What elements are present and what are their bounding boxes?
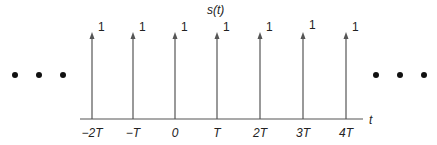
ellipsis-dot (60, 72, 66, 78)
ellipsis-dot (373, 72, 379, 78)
arrowhead-icon (90, 32, 95, 39)
tick-label: 3T (296, 126, 312, 140)
arrowhead-icon (258, 32, 263, 39)
tick-label: 0 (172, 126, 179, 140)
impulse-weight-label: 1 (266, 20, 273, 34)
impulse-weight-label: 1 (309, 18, 316, 32)
impulse-weight-label: 1 (352, 20, 359, 34)
impulse-weight-label: 1 (223, 20, 230, 34)
arrowhead-icon (215, 32, 220, 39)
impulse-weight-label: 1 (139, 20, 146, 34)
tick-label: −T (126, 126, 142, 140)
ellipsis-right-icon (373, 72, 427, 78)
tick-label: 2T (252, 126, 269, 140)
axis-label-t: t (369, 113, 373, 127)
impulse: 1−2T (81, 20, 105, 140)
ellipsis-dot (36, 72, 42, 78)
impulse: 14T (339, 20, 359, 140)
arrowhead-icon (344, 32, 349, 39)
tick-label: −2T (81, 126, 104, 140)
ellipsis-dot (397, 72, 403, 78)
impulse: 12T (252, 20, 273, 140)
tick-label: T (213, 126, 222, 140)
impulse-weight-label: 1 (181, 20, 188, 34)
impulse-weight-label: 1 (98, 20, 105, 34)
impulse: 10 (172, 20, 188, 140)
ellipsis-dot (12, 72, 18, 78)
diagram-title: s(t) (207, 3, 224, 17)
arrowhead-icon (131, 32, 136, 39)
arrowhead-icon (173, 32, 178, 39)
impulse-group: 1−2T1−T101T12T13T14T (81, 18, 359, 140)
impulse: 1T (213, 20, 230, 140)
impulse: 13T (296, 18, 316, 140)
ellipsis-dot (421, 72, 427, 78)
arrowhead-icon (301, 32, 306, 39)
tick-label: 4T (339, 126, 355, 140)
ellipsis-left-icon (12, 72, 66, 78)
impulse-train-diagram: s(t) t 1−2T1−T101T12T13T14T (0, 0, 437, 145)
impulse: 1−T (126, 20, 146, 140)
